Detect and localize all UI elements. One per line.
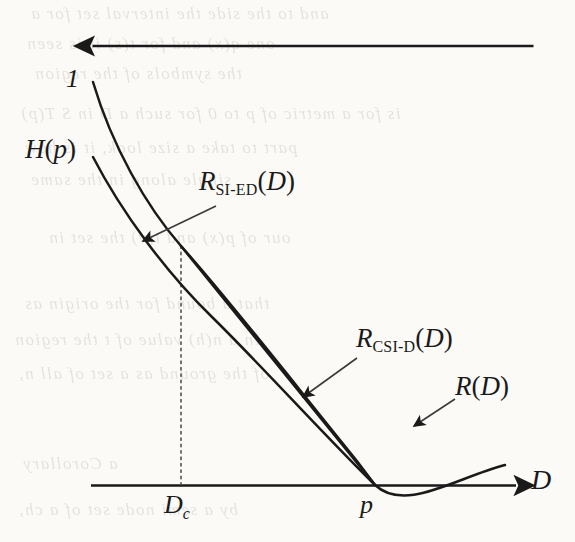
x-axis-label: D <box>531 466 551 494</box>
hp-base: H <box>25 134 45 164</box>
curve-label-r-csi-d: RCSI-D(D) <box>356 325 453 352</box>
x-tick-label-dc: Dc <box>164 492 190 518</box>
dc-subscript: c <box>183 505 190 522</box>
curve-r-si-ed <box>93 82 375 485</box>
hp-arg: p <box>54 134 68 164</box>
annotation-leader-r-csi-d <box>303 358 357 397</box>
figure-root: and to the side the interval set for a o… <box>0 0 575 542</box>
r-si-ed-subscript: SI-ED <box>216 181 258 198</box>
r-csi-d-subscript: CSI-D <box>373 338 416 355</box>
curve-label-r-d: R(D) <box>455 373 509 400</box>
plot-canvas <box>0 0 575 542</box>
r-d-close-paren: ) <box>500 371 509 401</box>
x-tick-label-p: p <box>360 492 373 518</box>
dc-base: D <box>164 490 183 519</box>
r-csi-d-close-paren: ) <box>444 323 453 353</box>
r-si-ed-arg: D <box>266 166 286 196</box>
r-d-arg: D <box>481 371 501 401</box>
hp-close-paren: ) <box>67 134 76 164</box>
r-d-base: R <box>455 371 472 401</box>
annotation-leader-r-d <box>414 399 455 426</box>
r-si-ed-base: R <box>199 166 216 196</box>
r-d-open-paren: ( <box>472 371 481 401</box>
y-tick-label-hp: H(p) <box>25 136 76 163</box>
hp-open-paren: ( <box>45 134 54 164</box>
r-si-ed-close-paren: ) <box>286 166 295 196</box>
y-tick-label-one: 1 <box>66 66 79 92</box>
r-csi-d-open-paren: ( <box>415 323 424 353</box>
r-csi-d-arg: D <box>424 323 444 353</box>
curve-label-r-si-ed: RSI-ED(D) <box>199 168 295 195</box>
r-csi-d-base: R <box>356 323 373 353</box>
